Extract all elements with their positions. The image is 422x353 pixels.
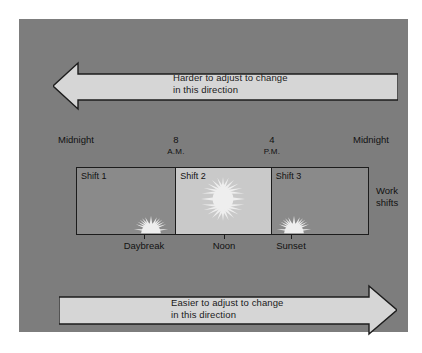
axis-label-8am-hour: 8 (173, 134, 178, 145)
work-shifts-side-label: Work shifts (376, 185, 398, 209)
harder-direction-arrow: Harder to adjust to change in this direc… (53, 59, 398, 113)
tick-daybreak (144, 235, 145, 239)
axis-label-4pm-hour: 4 (269, 134, 274, 145)
harder-direction-label: Harder to adjust to change in this direc… (173, 72, 288, 96)
diagram-panel: Harder to adjust to change in this direc… (19, 19, 408, 332)
tick-sunset (291, 235, 292, 239)
half-sun-rising-icon (133, 216, 169, 235)
shift-segment-1: Shift 1 (77, 168, 176, 234)
shift-3-label: Shift 3 (276, 171, 302, 181)
diagram-figure: Harder to adjust to change in this direc… (0, 0, 422, 353)
axis-label-8am: 8 A.M. (150, 134, 202, 157)
easier-direction-arrow: Easier to adjust to change in this direc… (59, 282, 397, 338)
sun-label-daybreak: Daybreak (109, 240, 179, 251)
work-shifts-chart: Shift 1 (76, 167, 369, 235)
easier-direction-label: Easier to adjust to change in this direc… (171, 297, 283, 321)
shift-segment-2: Shift 2 (176, 168, 271, 234)
full-sun-icon (201, 177, 245, 221)
half-sun-setting-icon (276, 216, 312, 235)
axis-label-midnight-left: Midnight (41, 134, 111, 146)
axis-label-midnight-right: Midnight (336, 134, 406, 146)
sun-label-sunset: Sunset (261, 240, 321, 251)
axis-label-4pm-meridiem: P.M. (246, 146, 298, 158)
axis-label-8am-meridiem: A.M. (150, 146, 202, 158)
sun-label-noon: Noon (194, 240, 254, 251)
axis-label-4pm: 4 P.M. (246, 134, 298, 157)
shift-1-label: Shift 1 (81, 171, 107, 181)
tick-noon (224, 235, 225, 239)
shift-segment-3: Shift 3 (272, 168, 368, 234)
